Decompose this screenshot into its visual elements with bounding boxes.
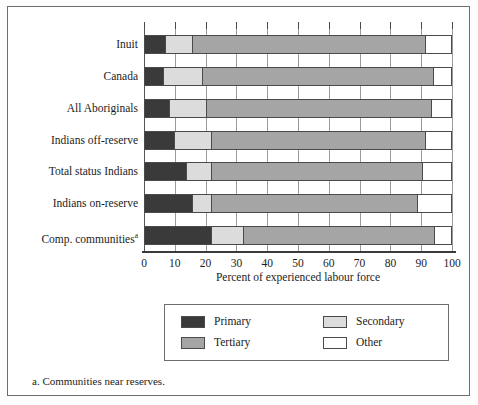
bar-segment-secondary <box>212 226 244 245</box>
legend-label: Secondary <box>356 315 405 328</box>
bar-segment-tertiary <box>212 194 418 213</box>
x-axis-tick-mark <box>360 22 361 29</box>
x-tick-label: 50 <box>292 256 304 270</box>
bar-segment-primary <box>144 194 193 213</box>
x-axis-tick-mark <box>144 22 145 29</box>
bar-segment-tertiary <box>212 162 423 181</box>
x-axis-tick-mark <box>267 22 268 29</box>
x-axis-tick-mark <box>329 22 330 29</box>
bar-row <box>144 194 452 213</box>
y-axis-label-all-aboriginals: All Aboriginals <box>67 102 138 115</box>
y-axis-label-canada: Canada <box>104 70 138 83</box>
x-axis-tick-mark <box>236 22 237 29</box>
plot-area <box>144 29 452 251</box>
x-tick-label: 10 <box>169 256 181 270</box>
bar-segment-tertiary <box>212 131 426 150</box>
x-axis-line <box>142 251 456 253</box>
bar-segment-other <box>426 131 452 150</box>
legend-entry-other[interactable]: Other <box>323 336 382 349</box>
bar-segment-other <box>432 99 452 118</box>
bar-segment-secondary <box>166 35 194 54</box>
chart-frame: InuitCanadaAll AboriginalsIndians off-re… <box>7 6 470 396</box>
bar-segment-primary <box>144 67 164 86</box>
x-axis-tick-mark <box>452 22 453 29</box>
bar-row <box>144 99 452 118</box>
bar-segment-other <box>418 194 452 213</box>
y-axis-label-inuit: Inuit <box>116 38 138 51</box>
bar-segment-primary <box>144 99 170 118</box>
bar-segment-other <box>426 35 452 54</box>
x-axis-tick-mark <box>298 22 299 29</box>
bar-segment-primary <box>144 35 166 54</box>
x-axis-tick-labels: 0102030405060708090100 <box>144 256 452 272</box>
x-tick-label: 70 <box>354 256 366 270</box>
legend-swatch-tertiary <box>181 337 205 349</box>
bar-segment-primary <box>144 131 175 150</box>
x-axis-tick-mark <box>175 22 176 29</box>
x-tick-label: 30 <box>231 256 243 270</box>
bar-segment-secondary <box>193 194 211 213</box>
legend-swatch-other <box>323 337 347 349</box>
bar-segment-secondary <box>164 67 203 86</box>
x-tick-label: 60 <box>323 256 335 270</box>
bar-row <box>144 162 452 181</box>
bar-row <box>144 131 452 150</box>
footnote-marker: a <box>135 231 138 240</box>
legend-entry-tertiary[interactable]: Tertiary <box>181 336 250 349</box>
bar-segment-tertiary <box>207 99 432 118</box>
y-axis-label-indians-off-reserve: Indians off-reserve <box>51 134 138 147</box>
legend-label: Primary <box>214 315 251 328</box>
bar-row <box>144 35 452 54</box>
bar-segment-tertiary <box>244 226 435 245</box>
bar-segment-primary <box>144 226 212 245</box>
bar-segment-other <box>434 67 452 86</box>
bar-segment-secondary <box>170 99 207 118</box>
bar-row <box>144 67 452 86</box>
legend: PrimarySecondaryTertiaryOther <box>164 304 449 361</box>
footnote: a. Communities near reserves. <box>32 375 165 387</box>
x-axis-title: Percent of experienced labour force <box>144 271 452 283</box>
y-axis-label-indians-on-reserve: Indians on-reserve <box>53 197 138 210</box>
bar-segment-primary <box>144 162 187 181</box>
bar-segment-secondary <box>175 131 212 150</box>
x-axis-tick-mark <box>206 22 207 29</box>
x-tick-label: 40 <box>261 256 273 270</box>
y-axis-category-labels: InuitCanadaAll AboriginalsIndians off-re… <box>8 29 138 251</box>
legend-entry-primary[interactable]: Primary <box>181 315 251 328</box>
legend-label: Tertiary <box>214 336 250 349</box>
legend-swatch-primary <box>181 316 205 328</box>
x-axis-tick-mark <box>421 22 422 29</box>
y-axis-label-comp-communities: Comp. communitiesa <box>41 229 138 246</box>
x-tick-label: 0 <box>141 256 147 270</box>
legend-label: Other <box>356 336 382 349</box>
bar-segment-other <box>435 226 452 245</box>
legend-swatch-secondary <box>323 316 347 328</box>
legend-entry-secondary[interactable]: Secondary <box>323 315 405 328</box>
x-tick-label: 20 <box>200 256 212 270</box>
x-tick-label: 90 <box>415 256 427 270</box>
x-tick-label: 80 <box>385 256 397 270</box>
figure: InuitCanadaAll AboriginalsIndians off-re… <box>0 0 478 405</box>
x-tick-label: 100 <box>443 256 460 270</box>
bar-segment-other <box>423 162 452 181</box>
bar-segment-tertiary <box>203 67 434 86</box>
bar-segment-tertiary <box>193 35 426 54</box>
gridline <box>452 29 453 251</box>
y-axis-label-total-status-indians: Total status Indians <box>49 165 138 178</box>
bar-segment-secondary <box>187 162 212 181</box>
bar-row <box>144 226 452 245</box>
x-axis-tick-mark <box>390 22 391 29</box>
